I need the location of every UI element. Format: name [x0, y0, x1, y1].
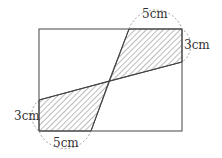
label-right-height: 3cm — [184, 39, 210, 51]
geometry-diagram — [0, 0, 222, 158]
label-bottom-width: 5cm — [53, 137, 79, 149]
diagonal-line-2 — [39, 62, 182, 100]
label-left-height: 3cm — [14, 110, 40, 122]
label-top-width: 5cm — [142, 8, 168, 20]
shaded-region-bottom — [39, 81, 109, 131]
diagonal-line-1 — [91, 29, 129, 131]
shaded-region-top — [109, 29, 182, 81]
